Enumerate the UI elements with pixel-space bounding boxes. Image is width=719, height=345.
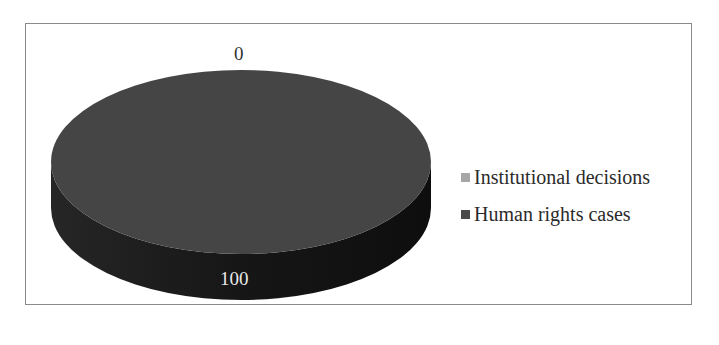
data-label-institutional-decisions: 0 xyxy=(234,44,244,63)
legend-swatch-icon xyxy=(461,173,470,182)
data-label-human-rights-cases: 100 xyxy=(220,269,249,288)
legend: Institutional decisions Human rights cas… xyxy=(461,159,650,233)
legend-label: Institutional decisions xyxy=(474,166,650,189)
legend-swatch-icon xyxy=(461,210,470,219)
legend-item-human-rights-cases: Human rights cases xyxy=(461,196,650,233)
legend-item-institutional-decisions: Institutional decisions xyxy=(461,159,650,196)
pie-slice-human-rights-cases xyxy=(51,70,431,254)
legend-label: Human rights cases xyxy=(474,203,631,226)
